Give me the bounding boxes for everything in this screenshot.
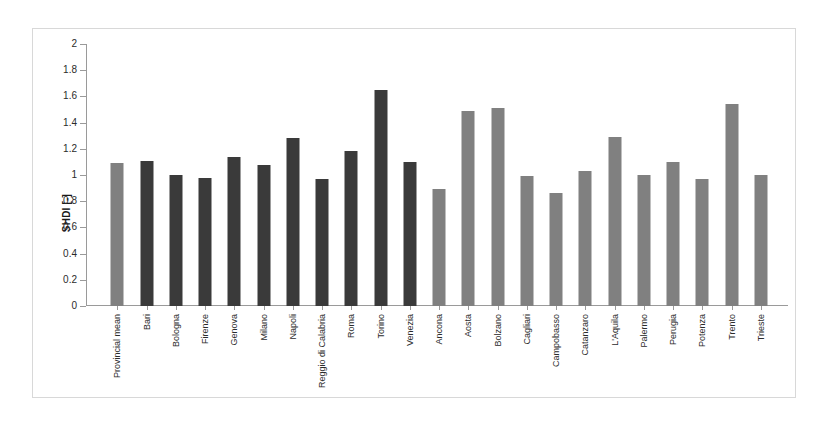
bar-slot: Trento [717,44,746,306]
chart-frame: SHDI [-] 21.81.61.41.210.80.60.40.20 Pro… [32,28,796,398]
x-axis-label: Firenze [201,314,210,344]
bar-slot: Campobasso [541,44,570,306]
bar-slot: Torino [366,44,395,306]
bar [257,165,270,306]
bar [637,175,650,306]
x-tick-mark [468,306,469,310]
bar [579,171,592,306]
x-axis-label: Provincial mean [113,314,122,378]
bar-slot: Napoli [278,44,307,306]
y-tick-mark [80,280,86,281]
bar [345,151,358,306]
y-tick-label: 1.6 [63,91,77,101]
bar [169,175,182,306]
y-tick-mark [80,306,86,307]
x-axis-label: Cagliari [522,314,531,345]
x-axis-label: Perugia [669,314,678,345]
bar-slot: Bologna [161,44,190,306]
x-tick-mark [732,306,733,310]
y-tick-label: 1 [71,170,77,180]
x-tick-mark [117,306,118,310]
bar-slot: Roma [337,44,366,306]
y-tick-label: 0.4 [63,249,77,259]
y-tick-mark [80,123,86,124]
x-axis-label: Trieste [756,314,765,341]
x-axis-label: Napoli [288,314,297,340]
bar-slot: Aosta [454,44,483,306]
y-tick-label: 0 [71,301,77,311]
y-axis-line [86,44,87,306]
bar [111,163,124,306]
y-tick-label: 0.6 [63,222,77,232]
bar [462,111,475,306]
bar [491,108,504,306]
x-axis-label: Reggio di Calabria [318,314,327,388]
x-tick-mark [147,306,148,310]
x-tick-mark [527,306,528,310]
bar-slot: Ancona [424,44,453,306]
x-axis-label: Torino [376,314,385,339]
bar-slot: Cagliari [512,44,541,306]
bar [608,137,621,306]
bar-slot: Provincial mean [103,44,132,306]
bar-slot: Bolzano [483,44,512,306]
x-tick-mark [702,306,703,310]
bar [403,162,416,306]
bar-slot: Bari [132,44,161,306]
bar [140,161,153,306]
bar-slot: Trieste [746,44,775,306]
x-tick-mark [498,306,499,310]
x-tick-mark [673,306,674,310]
bar [725,104,738,306]
x-axis-label: Venezia [405,314,414,346]
bar [433,189,446,306]
x-tick-mark [264,306,265,310]
bar [754,175,767,306]
x-axis-label: Milano [259,314,268,341]
x-tick-mark [439,306,440,310]
bar-slot: Perugia [658,44,687,306]
plot-area: 21.81.61.41.210.80.60.40.20 Provincial m… [86,44,788,306]
bar-slot: L'Aquila [600,44,629,306]
x-axis-label: Genova [230,314,239,346]
x-tick-mark [381,306,382,310]
x-tick-mark [205,306,206,310]
bar-slot: Genova [220,44,249,306]
bar [696,179,709,306]
x-tick-mark [585,306,586,310]
bar [199,178,212,306]
bar [228,157,241,306]
y-tick-mark [80,201,86,202]
y-tick-mark [80,96,86,97]
x-axis-label: Palermo [639,314,648,348]
x-axis-label: Bologna [171,314,180,347]
bar [667,162,680,306]
y-tick-label: 0.8 [63,196,77,206]
x-axis-label: Potenza [698,314,707,347]
x-tick-mark [351,306,352,310]
y-tick-label: 1.4 [63,118,77,128]
bar [374,90,387,306]
y-tick-label: 0.2 [63,275,77,285]
bar-slot: Venezia [395,44,424,306]
bar [286,138,299,306]
y-tick-mark [80,44,86,45]
x-tick-mark [322,306,323,310]
x-tick-mark [176,306,177,310]
bar-slot: Potenza [688,44,717,306]
x-axis-label: Campobasso [552,314,561,367]
x-tick-mark [615,306,616,310]
x-axis-label: Roma [347,314,356,338]
x-tick-mark [234,306,235,310]
x-tick-mark [644,306,645,310]
y-tick-mark [80,254,86,255]
x-axis-label: Bari [142,314,151,330]
y-tick-mark [80,175,86,176]
bar-slot: Firenze [190,44,219,306]
y-tick-label: 1.2 [63,144,77,154]
bar [550,193,563,306]
x-axis-label: Aosta [464,314,473,337]
x-tick-mark [556,306,557,310]
bar [520,176,533,306]
y-tick-mark [80,227,86,228]
